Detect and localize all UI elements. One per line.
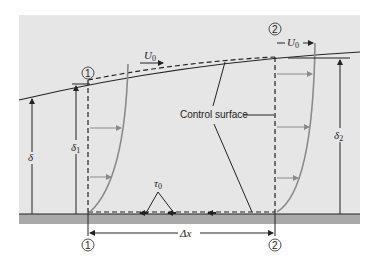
delta-x-label: Δx	[179, 227, 191, 239]
svg-text:1: 1	[85, 68, 91, 79]
delta-label: δ	[28, 151, 34, 163]
ground-plate	[19, 214, 360, 224]
section-marker-2-top: 2	[269, 23, 281, 35]
svg-text:2: 2	[272, 240, 278, 251]
control-surface-label: Control surface	[180, 109, 248, 120]
svg-text:1: 1	[85, 240, 91, 251]
section-marker-1-bottom: 1	[82, 239, 94, 251]
section-marker-2-bottom: 2	[269, 239, 281, 251]
boundary-layer-diagram: U0 U0 δ δ1 δ2 Control surface τ0 Δx 1 2 …	[0, 0, 377, 268]
section-marker-1-top: 1	[82, 67, 94, 79]
svg-text:2: 2	[272, 24, 278, 35]
